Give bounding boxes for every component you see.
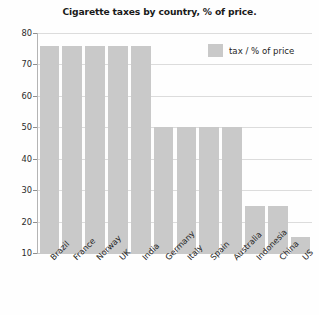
y-tick-mark xyxy=(33,64,37,65)
y-tick-label: 20 xyxy=(21,217,32,227)
y-tick-mark xyxy=(33,253,37,254)
y-tick-mark xyxy=(33,190,37,191)
legend-label: tax / % of price xyxy=(229,46,294,56)
y-tick-label: 30 xyxy=(21,185,32,195)
y-tick-mark xyxy=(33,222,37,223)
plot-area xyxy=(38,33,312,253)
y-tick-mark xyxy=(33,96,37,97)
bar xyxy=(108,46,128,253)
y-tick-label: 10 xyxy=(21,248,32,258)
y-tick-label: 80 xyxy=(21,28,32,38)
legend-swatch-icon xyxy=(208,44,223,57)
bar xyxy=(131,46,151,253)
y-tick-label: 40 xyxy=(21,154,32,164)
bar-series xyxy=(38,33,312,253)
y-tick-label: 50 xyxy=(21,122,32,132)
chart-legend: tax / % of price xyxy=(208,44,294,57)
y-tick-label: 70 xyxy=(21,59,32,69)
y-tick-mark xyxy=(33,159,37,160)
bar xyxy=(85,46,105,253)
bar xyxy=(154,127,174,253)
y-tick-mark xyxy=(33,127,37,128)
bar xyxy=(40,46,60,253)
x-axis: BrazilFranceNorwayUKIndiaGermanyItalySpa… xyxy=(38,255,312,315)
bar-chart: Cigarette taxes by country, % of price. … xyxy=(0,0,319,315)
bar xyxy=(222,127,242,253)
bar xyxy=(199,127,219,253)
bar xyxy=(62,46,82,253)
chart-title: Cigarette taxes by country, % of price. xyxy=(0,6,319,17)
y-tick-label: 60 xyxy=(21,91,32,101)
y-tick-mark xyxy=(33,33,37,34)
